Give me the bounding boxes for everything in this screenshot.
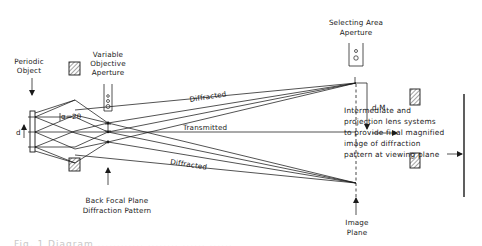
svg-text:Periodic: Periodic [14, 57, 44, 66]
svg-text:Diffraction Pattern: Diffraction Pattern [83, 206, 152, 215]
objective-aperture-label: Variable Objective Aperture [90, 50, 126, 77]
svg-text:Aperture: Aperture [92, 68, 125, 77]
svg-text:Aperture: Aperture [340, 28, 373, 37]
svg-text:to provide final magnified: to provide final magnified [344, 128, 445, 137]
svg-text:Variable: Variable [93, 50, 124, 59]
alpha-angle-label: α=2θ [60, 112, 81, 121]
svg-text:Object: Object [17, 66, 41, 75]
objective-lens-lower [69, 158, 80, 171]
image-plane-label: Image Plane [345, 218, 369, 237]
svg-text:α=2θ: α=2θ [61, 112, 81, 121]
svg-text:Objective: Objective [90, 59, 126, 68]
back-focal-plane-label: Back Focal Plane Diffraction Pattern [83, 196, 152, 215]
figure-caption-cutoff: Fig. 1 Diagram ............ ........ ...… [14, 239, 474, 246]
transmitted-label: Transmitted [182, 123, 227, 132]
svg-text:Plane: Plane [347, 228, 368, 237]
svg-text:pattern at viewing plane: pattern at viewing plane [344, 150, 440, 159]
diffracted-bottom-label: Diffracted [170, 157, 208, 172]
diffraction-diagram: Periodic Object d Variable Objective Ape… [0, 0, 482, 246]
svg-text:Image: Image [345, 218, 369, 227]
intermediate-lens-upper [410, 89, 420, 105]
svg-text:Selecting Area: Selecting Area [329, 18, 383, 27]
d-label: d [16, 128, 21, 137]
selecting-area-aperture [349, 43, 363, 66]
objective-lens-upper [69, 62, 80, 75]
projection-system-description: Intermediate and projection lens systems… [344, 106, 445, 159]
svg-text:image of diffraction: image of diffraction [344, 139, 421, 148]
diffracted-top-label: Diffracted [189, 89, 227, 104]
periodic-object-label: Periodic Object [14, 57, 44, 75]
svg-text:projection lens systems: projection lens systems [344, 117, 436, 126]
svg-text:Back Focal Plane: Back Focal Plane [86, 196, 149, 205]
rays-object-to-lens [35, 100, 75, 163]
svg-text:Intermediate and: Intermediate and [344, 106, 411, 115]
selecting-area-aperture-label: Selecting Area Aperture [329, 18, 383, 37]
